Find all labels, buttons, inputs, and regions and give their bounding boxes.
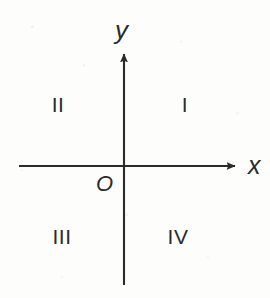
quadrant-label-iii: III [42,226,82,247]
x-axis-label: x [248,153,261,178]
quadrant-label-ii: II [38,94,78,115]
quadrant-label-iv: IV [158,226,198,247]
quadrant-label-i: I [165,94,205,115]
y-axis-label: y [115,17,128,43]
axes-drawing [0,0,270,298]
origin-label: O [96,173,113,195]
coordinate-plane-figure: y x O II I III IV [0,0,270,298]
